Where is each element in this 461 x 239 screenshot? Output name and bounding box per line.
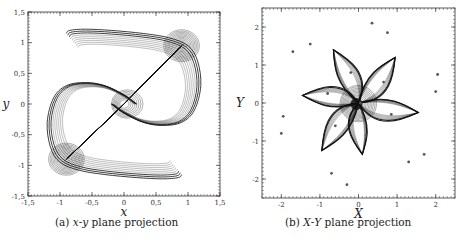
scatter-point [386, 31, 389, 34]
caption-a-prefix: (a) [55, 216, 69, 228]
y-tick-label: 0 [255, 100, 259, 108]
scatter-point [330, 172, 333, 175]
y-tick-label: 0,5 [14, 70, 25, 78]
x-tick-label: 1,5 [214, 199, 225, 207]
y-tick-label: -1,5 [12, 193, 26, 201]
xy-plot: -1,5-1-0,500,511,5-1,5-1-0,500,511,5xy [0, 0, 230, 239]
XY-plot: -2-1012-2-1012XY [230, 0, 461, 239]
x-tick-label: -0,5 [85, 199, 99, 207]
y-axis-label: y [2, 97, 10, 111]
caption-b-rest: plane projection [325, 216, 412, 228]
scatter-point [407, 161, 410, 164]
x-tick-label: 2 [433, 201, 437, 209]
panel-b-XY-projection: -2-1012-2-1012XY (b) X-Y plane projectio… [230, 0, 461, 239]
y-tick-label: -1 [18, 162, 25, 170]
caption-a-var2: y [82, 216, 88, 228]
scatter-point [326, 92, 329, 95]
y-tick-label: 1 [21, 39, 25, 47]
attractor-trajectory [47, 29, 201, 179]
scatter-point [280, 132, 283, 135]
scatter-point [282, 115, 285, 118]
scatter-point [291, 50, 294, 53]
caption-b-prefix: (b) [285, 216, 300, 228]
caption-b-var1: X [303, 216, 310, 228]
scatter-point [346, 183, 349, 186]
y-tick-label: -1 [252, 138, 259, 146]
y-tick-label: 1 [255, 62, 259, 70]
scatter-point [434, 90, 437, 93]
scatter-point [359, 102, 362, 105]
panel-a-xy-projection: -1,5-1-0,500,511,5-1,5-1-0,500,511,5xy (… [0, 0, 230, 239]
y-tick-label: 1,5 [14, 9, 25, 17]
equilibrium-points [280, 22, 439, 186]
caption-a: (a) x-y plane projection [55, 216, 178, 228]
caption-b-var2: Y [314, 216, 321, 228]
x-tick-label: 1 [186, 199, 190, 207]
x-tick-label: 1 [395, 201, 399, 209]
y-tick-label: 0 [21, 101, 25, 109]
scatter-point [436, 73, 439, 76]
scatter-point [390, 113, 393, 116]
scatter-point [365, 134, 368, 137]
scatter-point [334, 124, 337, 127]
scatter-point [371, 22, 374, 25]
y-tick-label: 2 [255, 24, 259, 32]
scatter-point [349, 71, 352, 74]
y-tick-label: -2 [252, 176, 259, 184]
scatter-point [382, 81, 385, 84]
scatter-point [309, 43, 312, 46]
y-axis-label: Y [236, 96, 245, 110]
x-tick-label: 0,5 [150, 199, 161, 207]
x-tick-label: -2 [278, 201, 285, 209]
y-tick-label: -0,5 [12, 131, 26, 139]
caption-b: (b) X-Y plane projection [285, 216, 411, 228]
x-tick-label: -1 [316, 201, 323, 209]
x-tick-label: -1 [57, 199, 64, 207]
scatter-point [423, 153, 426, 156]
caption-a-rest: plane projection [92, 216, 179, 228]
